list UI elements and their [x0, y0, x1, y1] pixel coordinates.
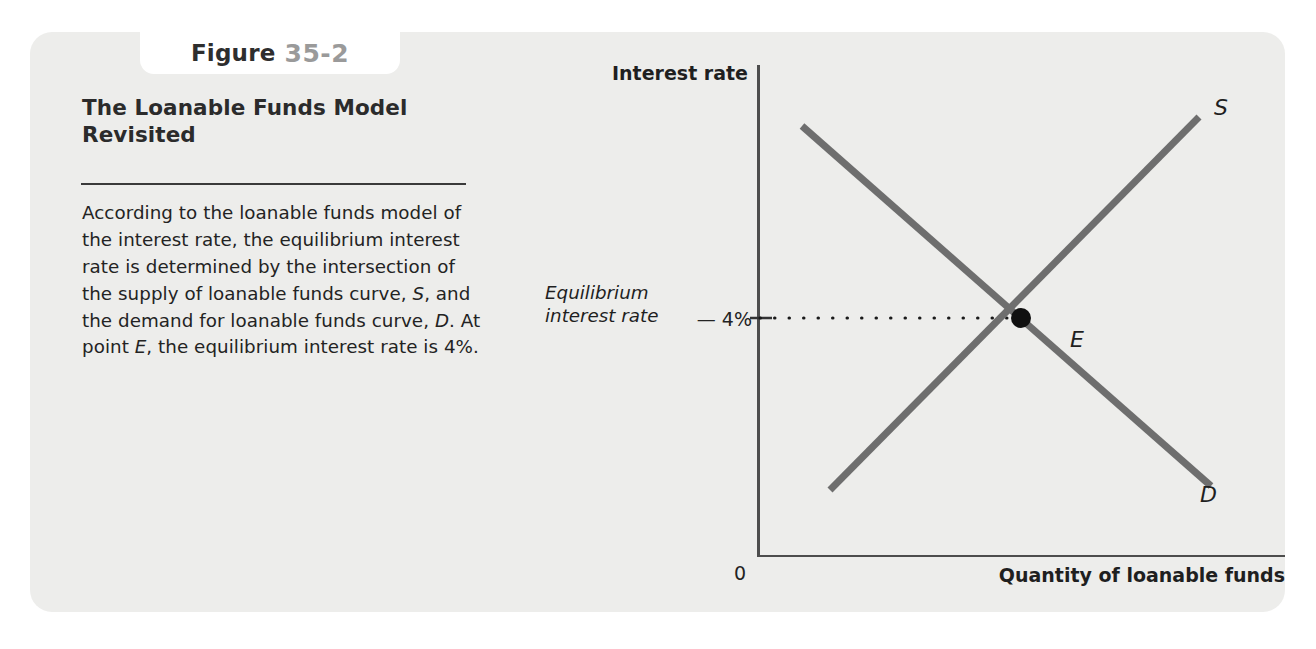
figure-card: Figure 35-2 The Loanable Funds Model Rev…	[30, 32, 1285, 612]
caption-italic-d: D	[435, 310, 449, 331]
caption-text-1: According to the loanable funds model of…	[82, 202, 461, 304]
figure-badge-word: Figure	[191, 40, 276, 66]
caption-italic-s: S	[412, 283, 424, 304]
title-divider	[81, 183, 466, 185]
figure-title: The Loanable Funds Model Revisited	[82, 94, 477, 149]
equilibrium-point-dot	[1011, 308, 1031, 328]
caption-column: Figure 35-2 The Loanable Funds Model Rev…	[55, 32, 495, 612]
caption-text-4: , the equilibrium interest rate is 4%.	[146, 336, 479, 357]
caption-italic-e: E	[135, 336, 147, 357]
figure-caption: According to the loanable funds model of…	[82, 200, 487, 361]
chart-plot-svg	[500, 32, 1285, 612]
figure-number-badge: Figure 35-2	[140, 32, 400, 74]
supply-curve-label: S	[1214, 95, 1228, 120]
figure-badge-number: 35-2	[285, 39, 350, 68]
demand-curve-label: D	[1200, 482, 1217, 507]
supply-curve	[830, 117, 1199, 490]
equilibrium-point-label: E	[1070, 327, 1084, 352]
chart-area: Interest rate Equilibrium interest rate …	[500, 32, 1285, 612]
demand-curve	[802, 126, 1211, 486]
